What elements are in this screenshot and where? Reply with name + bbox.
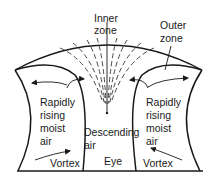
right-top-arrow-right	[148, 78, 188, 87]
label-eye-column-2: air	[84, 139, 96, 151]
hurricane-diagram: Inner zone Outer zone Rapidly rising moi…	[0, 0, 215, 179]
label-left-column-3: moist	[40, 122, 65, 134]
label-outer-zone-1: Outer	[160, 19, 187, 31]
label-right-vortex: Vortex	[143, 157, 174, 169]
label-right-column-1: Rapidly	[146, 96, 182, 108]
outer-zone-pointer	[165, 46, 171, 70]
top-dome-arc	[15, 45, 202, 70]
label-eye-column-1: Descending	[84, 126, 140, 138]
center-dot	[106, 112, 108, 114]
label-left-column-2: rising	[40, 109, 65, 121]
left-top-arrow-right	[67, 79, 84, 88]
label-right-column-4: air	[146, 135, 158, 147]
label-left-column-4: air	[40, 135, 52, 147]
label-left-column-1: Rapidly	[40, 96, 76, 108]
label-right-column-3: moist	[146, 122, 171, 134]
label-right-column-2: rising	[146, 109, 171, 121]
label-inner-zone-2: zone	[94, 24, 117, 36]
label-outer-zone-2: zone	[160, 32, 183, 44]
label-inner-zone-1: Inner	[94, 12, 118, 24]
label-eye: Eye	[104, 155, 122, 167]
left-top-arrow-left	[32, 82, 67, 85]
label-left-vortex: Vortex	[50, 157, 81, 169]
